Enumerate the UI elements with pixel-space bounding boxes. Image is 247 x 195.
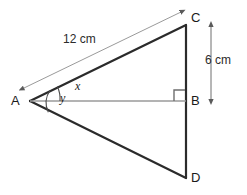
geometry-figure: A B C D 12 cm 6 cm x y	[0, 0, 247, 195]
segment-ad	[30, 101, 186, 178]
angle-label-y: y	[60, 92, 65, 104]
vertex-label-a: A	[11, 94, 20, 107]
angle-label-x: x	[75, 80, 80, 92]
dimension-label-ac: 12 cm	[63, 33, 96, 45]
dimension-line-ac	[24, 12, 181, 88]
vertex-label-b: B	[191, 94, 200, 107]
vertex-label-d: D	[191, 171, 200, 184]
right-angle-marker	[174, 90, 185, 101]
geometry-canvas	[0, 0, 247, 195]
segment-ac	[30, 25, 186, 101]
dimension-label-cb: 6 cm	[205, 54, 231, 66]
vertex-label-c: C	[191, 11, 200, 24]
